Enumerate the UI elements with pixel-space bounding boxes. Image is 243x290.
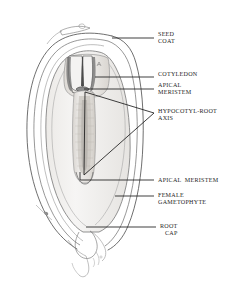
root-cap-tip — [68, 231, 106, 277]
seed-diagram-svg — [0, 0, 243, 290]
diagram-page: SEEDCOAT COTYLEDON APICALMERISTEM HYPOCO… — [0, 0, 243, 290]
label-seed-coat-line1: SEED — [158, 31, 174, 37]
cotyledons — [64, 54, 110, 97]
label-female-gametophyte-line2: GAMETOPHYTE — [158, 199, 206, 205]
label-female-gametophyte: FEMALEGAMETOPHYTE — [158, 192, 206, 207]
label-apical-meristem-lower-line1: APICAL MERISTEM — [158, 177, 218, 183]
label-seed-coat: SEEDCOAT — [158, 31, 175, 46]
label-root-cap-line2: CAP — [160, 230, 178, 236]
label-female-gametophyte-line1: FEMALE — [158, 192, 184, 198]
label-apical-meristem-upper-line1: APICAL — [158, 82, 182, 88]
label-hypocotyl-root-axis-line2: AXIS — [158, 115, 173, 121]
label-hypocotyl-root-axis-line1: HYPOCOTYL-ROOT — [158, 108, 217, 114]
label-apical-meristem-upper-line2: MERISTEM — [158, 89, 192, 95]
label-apical-meristem-upper: APICALMERISTEM — [158, 82, 192, 97]
label-root-cap: ROOTCAP — [160, 223, 178, 238]
label-root-cap-line1: ROOT — [160, 223, 178, 229]
label-cotyledon-line1: COTYLEDON — [158, 71, 198, 77]
label-apical-meristem-lower: APICAL MERISTEM — [158, 177, 218, 184]
label-seed-coat-line2: COAT — [158, 38, 175, 44]
label-hypocotyl-root-axis: HYPOCOTYL-ROOTAXIS — [158, 108, 217, 123]
label-cotyledon: COTYLEDON — [158, 71, 198, 78]
